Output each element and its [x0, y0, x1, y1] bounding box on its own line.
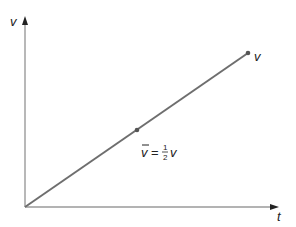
- y-axis-arrow-icon: [22, 16, 28, 25]
- midpoint-equation: v = 1 2 v: [141, 143, 178, 162]
- midpoint: [135, 128, 140, 133]
- x-axis-label: t: [277, 209, 282, 224]
- rhs-v: v: [170, 145, 178, 160]
- line-end-label: v: [254, 49, 262, 64]
- mean-v-symbol: v: [141, 145, 149, 160]
- fraction-denominator: 2: [163, 153, 168, 162]
- fraction-numerator: 1: [163, 143, 168, 152]
- velocity-time-diagram: v t v v = 1 2 v: [0, 0, 296, 227]
- equals-sign: =: [151, 145, 159, 160]
- end-point: [246, 51, 251, 56]
- y-axis-label: v: [10, 14, 18, 29]
